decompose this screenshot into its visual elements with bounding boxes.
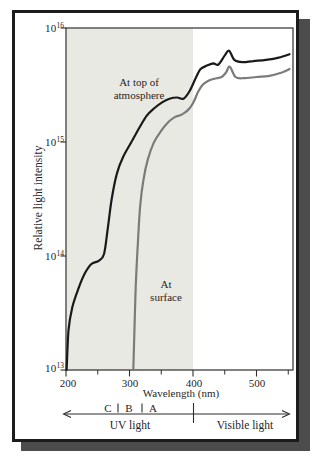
visible-light-region-label: Visible light xyxy=(217,419,274,431)
curve-label-line: surface xyxy=(150,290,182,303)
curve-label-top-of-atmosphere: At top of atmosphere xyxy=(114,76,165,101)
y-axis-ticks xyxy=(61,28,67,370)
figure-canvas: 1016 1015 1014 1013 200 300 400 500 Wave… xyxy=(0,0,317,461)
x-tick-label-200: 200 xyxy=(60,377,77,389)
y-tick-exponent: 16 xyxy=(57,21,65,30)
y-tick-exponent: 15 xyxy=(57,135,65,144)
curve-label-line: At xyxy=(150,278,182,291)
uv-band-c-label: C xyxy=(104,402,111,414)
x-axis-title: Wavelength (nm) xyxy=(143,387,219,399)
curve-label-surface: At surface xyxy=(150,278,182,303)
curve-label-line: atmosphere xyxy=(114,88,165,101)
uv-light-region-label: UV light xyxy=(110,419,150,431)
y-tick-label-1e14: 1014 xyxy=(45,249,64,262)
curve-label-line: At top of xyxy=(114,76,165,89)
y-tick-label-1e13: 1013 xyxy=(45,361,64,374)
y-tick-exponent: 14 xyxy=(57,249,65,258)
uv-band-b-label: B xyxy=(125,402,132,414)
y-tick-exponent: 13 xyxy=(57,361,65,370)
y-tick-label-1e15: 1015 xyxy=(45,135,64,148)
x-tick-label-500: 500 xyxy=(249,377,266,389)
y-axis-title: Relative light intensity xyxy=(32,146,44,251)
uv-band-a-label: A xyxy=(149,402,157,414)
y-tick-label-1e16: 1016 xyxy=(45,21,64,34)
x-tick-label-300: 300 xyxy=(122,377,139,389)
